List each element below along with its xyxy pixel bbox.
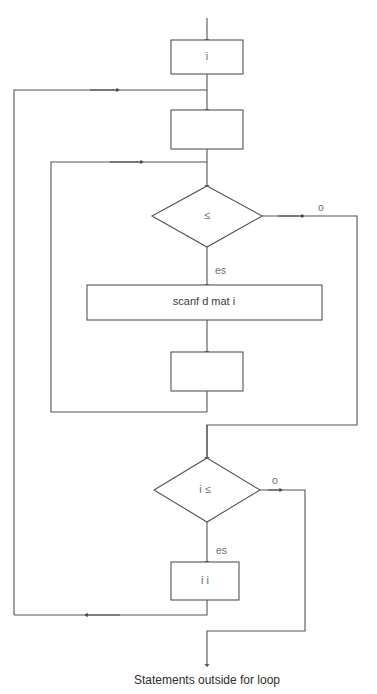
flowchart-svg: i ≤ scanf d mat i i ≤ [0, 0, 377, 694]
diagram-caption: Statements outside for loop [134, 673, 280, 687]
node-increment-label: i i [201, 574, 209, 586]
flowchart-canvas: i ≤ scanf d mat i i ≤ [0, 0, 377, 694]
edge-label-cond1-yes: es [215, 264, 226, 276]
node-cond1[interactable]: ≤ [152, 186, 262, 247]
node-increment[interactable]: i i [171, 562, 239, 600]
node-cond2[interactable]: i ≤ [154, 458, 260, 522]
node-init-label: i [206, 50, 208, 62]
edge-label-cond2-yes: es [216, 544, 227, 556]
node-cond1-label: ≤ [204, 209, 210, 221]
node-scanf-label: scanf d mat i [173, 295, 235, 307]
node-block2-shape [171, 110, 243, 149]
node-block4-shape [171, 352, 243, 391]
node-block2[interactable] [171, 110, 243, 149]
node-init[interactable]: i [171, 40, 243, 74]
node-scanf[interactable]: scanf d mat i [87, 285, 322, 320]
edge-label-cond1-no: o [318, 201, 324, 213]
edge-cond1-no [207, 216, 357, 458]
node-block4[interactable] [171, 352, 243, 391]
edge-increment-to-outer-rail [14, 600, 207, 615]
node-cond2-label: i ≤ [199, 483, 211, 495]
edge-label-cond2-no: o [272, 474, 278, 486]
